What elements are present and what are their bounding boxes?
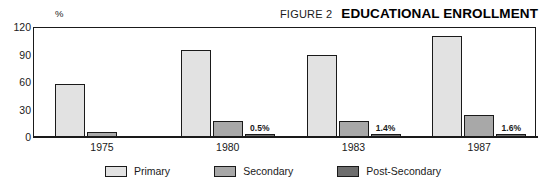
y-axis-unit-label: % bbox=[55, 8, 63, 19]
legend-swatch-icon bbox=[214, 166, 236, 177]
x-axis-tick-labels: 1975198019831987 bbox=[33, 141, 536, 157]
bar-post-secondary-1987: 1.6% bbox=[496, 134, 526, 138]
y-tick-90: 90 bbox=[1, 49, 31, 61]
legend-item-post-secondary: Post-Secondary bbox=[337, 165, 441, 177]
y-axis-tick-labels: 1209060300 bbox=[0, 0, 31, 184]
bar-secondary-1975 bbox=[87, 132, 117, 138]
bar-group-1987: 1.6% bbox=[432, 27, 526, 137]
page-title: EDUCATIONAL ENROLLMENT bbox=[341, 6, 538, 21]
y-tick-60: 60 bbox=[1, 76, 31, 88]
data-label-1980: 0.5% bbox=[250, 123, 269, 133]
figure-educational-enrollment: FIGURE 2 EDUCATIONAL ENROLLMENT % 120906… bbox=[0, 0, 546, 184]
bar-secondary-1980 bbox=[213, 121, 243, 137]
data-label-1983: 1.4% bbox=[376, 123, 395, 133]
figure-header: FIGURE 2 EDUCATIONAL ENROLLMENT bbox=[280, 6, 538, 21]
bar-post-secondary-1980: 0.5% bbox=[245, 134, 275, 138]
bar-post-secondary-1983: 1.4% bbox=[371, 134, 401, 138]
bar-primary-1975 bbox=[55, 84, 85, 137]
y-tick-30: 30 bbox=[1, 104, 31, 116]
bar-series-container: 0.5%1.4%1.6% bbox=[33, 27, 536, 137]
figure-number: FIGURE 2 bbox=[280, 8, 332, 20]
bar-primary-1987 bbox=[432, 36, 462, 137]
bar-group-1983: 1.4% bbox=[307, 27, 401, 137]
legend-label: Primary bbox=[134, 165, 170, 177]
chart-legend: PrimarySecondaryPost-Secondary bbox=[0, 160, 546, 182]
bar-secondary-1987 bbox=[464, 115, 494, 137]
legend-label: Secondary bbox=[243, 165, 293, 177]
legend-item-primary: Primary bbox=[105, 165, 170, 177]
x-tick-1987: 1987 bbox=[468, 141, 491, 153]
legend-swatch-icon bbox=[337, 166, 359, 177]
bar-primary-1983 bbox=[307, 55, 337, 137]
bar-primary-1980 bbox=[181, 50, 211, 137]
data-label-1987: 1.6% bbox=[502, 123, 521, 133]
legend-swatch-icon bbox=[105, 166, 127, 177]
y-tick-120: 120 bbox=[1, 21, 31, 33]
bar-secondary-1983 bbox=[339, 121, 369, 137]
x-tick-1983: 1983 bbox=[342, 141, 365, 153]
x-tick-1980: 1980 bbox=[216, 141, 239, 153]
y-tick-0: 0 bbox=[1, 131, 31, 143]
bar-group-1980: 0.5% bbox=[181, 27, 275, 137]
legend-item-secondary: Secondary bbox=[214, 165, 293, 177]
bar-group-1975 bbox=[55, 27, 149, 137]
x-tick-1975: 1975 bbox=[90, 141, 113, 153]
legend-label: Post-Secondary bbox=[366, 165, 441, 177]
